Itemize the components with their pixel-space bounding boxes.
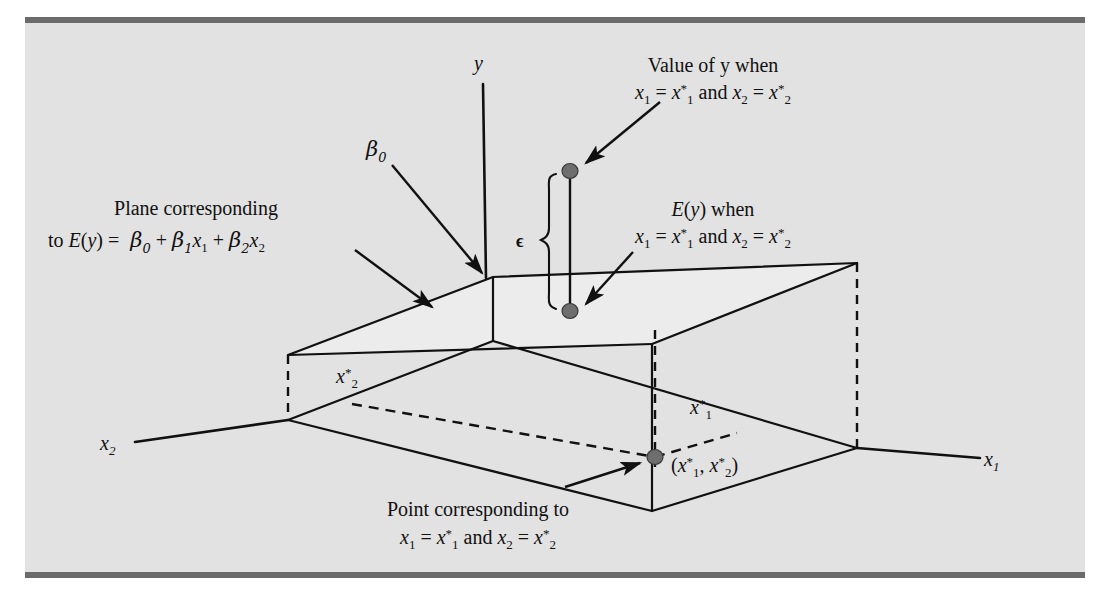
y-axis-label: y xyxy=(472,52,483,75)
arrow-plane xyxy=(355,250,432,307)
arrow-beta0 xyxy=(392,165,482,273)
x1-axis-label: x1 xyxy=(983,448,999,474)
base-point-dot xyxy=(647,450,663,465)
y-axis xyxy=(483,84,486,278)
x2-axis-label: x2 xyxy=(99,432,116,458)
regression-plane-diagram: y x2 x1 β0 ϵ Value of y when x1 = x*1 an… xyxy=(0,0,1103,605)
x2-axis xyxy=(135,420,288,442)
observed-y-dot xyxy=(562,164,578,179)
plane-caption-line1: Plane corresponding xyxy=(114,197,278,220)
point-caption-line2: x1 = x*1 and x2 = x*2 xyxy=(399,526,556,552)
plane-caption-line2: to E(y) = β0 + β1x1 + β2x2 xyxy=(48,228,265,256)
figure-root: y x2 x1 β0 ϵ Value of y when x1 = x*1 an… xyxy=(0,0,1103,605)
x2-star-label: x*2 xyxy=(335,365,358,391)
expected-y-caption-line1: E(y) when xyxy=(671,198,755,221)
expected-y-dot xyxy=(562,304,578,319)
expected-y-caption-line2: x1 = x*1 and x2 = x*2 xyxy=(634,225,791,251)
epsilon-label: ϵ xyxy=(516,231,524,251)
arrow-value-of-y xyxy=(586,102,660,163)
beta0-label: β0 xyxy=(365,137,386,165)
value-of-y-caption-line1: Value of y when xyxy=(648,54,779,77)
x1-axis xyxy=(857,448,980,458)
point-caption-line1: Point corresponding to xyxy=(387,498,569,521)
